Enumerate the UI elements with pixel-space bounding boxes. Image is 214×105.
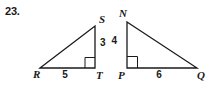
vertex-label-p: P xyxy=(118,69,125,81)
triangle-rst-outline xyxy=(40,26,95,68)
triangle-rst: R S T 5 3 xyxy=(32,13,106,81)
side-length-pq: 6 xyxy=(156,69,162,80)
vertex-label-q: Q xyxy=(197,69,205,81)
triangle-npq: N P Q 4 6 xyxy=(111,7,205,81)
vertex-label-n: N xyxy=(118,7,128,19)
problem-figure-page: 23. R S T 5 3 N P Q 4 6 xyxy=(0,0,214,105)
geometry-figures: R S T 5 3 N P Q 4 6 xyxy=(0,0,214,105)
vertex-label-t: T xyxy=(96,69,104,81)
right-angle-marker-t xyxy=(85,58,95,69)
side-length-st: 3 xyxy=(100,37,106,48)
right-angle-marker-p xyxy=(127,57,138,69)
side-length-rt: 5 xyxy=(62,69,68,80)
side-length-np: 4 xyxy=(111,35,117,46)
vertex-label-s: S xyxy=(99,13,105,25)
vertex-label-r: R xyxy=(32,68,40,80)
